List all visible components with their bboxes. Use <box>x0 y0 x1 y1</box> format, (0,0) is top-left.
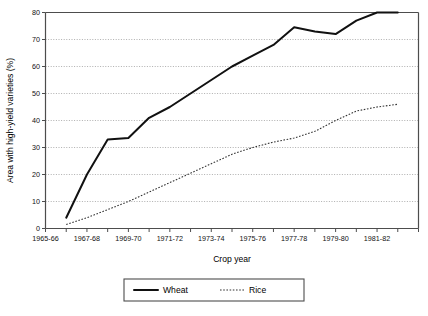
y-tick-label: 60 <box>32 62 40 71</box>
axes <box>46 13 419 229</box>
x-tick-label: 1977-78 <box>281 234 307 243</box>
y-tick-label: 70 <box>32 35 40 44</box>
series-line-wheat <box>66 13 398 218</box>
data-series <box>66 13 398 225</box>
series-line-rice <box>66 104 398 224</box>
gridlines <box>46 40 419 202</box>
x-tick-label: 1965-66 <box>32 234 58 243</box>
y-tick-label: 10 <box>32 197 40 206</box>
x-tick-label: 1967-68 <box>74 234 100 243</box>
x-tick-label: 1969-70 <box>115 234 141 243</box>
legend-label-rice: Rice <box>249 285 266 295</box>
x-tick-label: 1981-82 <box>364 234 390 243</box>
x-tick-label: 1979-80 <box>322 234 348 243</box>
x-axis-title: Crop year <box>213 254 251 264</box>
y-tick-label: 30 <box>32 143 40 152</box>
tick-marks <box>42 13 419 233</box>
y-tick-label: 80 <box>32 8 40 17</box>
x-tick-labels: 1965-661967-681969-701971-721973-741975-… <box>32 234 390 243</box>
y-tick-label: 0 <box>36 224 40 233</box>
y-axis-title: Area with high-yield varieties (%) <box>5 58 15 183</box>
chart-container: 01020304050607080 1965-661967-681969-701… <box>0 0 428 316</box>
y-tick-labels: 01020304050607080 <box>32 8 40 233</box>
line-chart: 01020304050607080 1965-661967-681969-701… <box>0 0 428 316</box>
legend-label-wheat: Wheat <box>163 285 188 295</box>
x-tick-label: 1975-76 <box>240 234 266 243</box>
y-tick-label: 50 <box>32 89 40 98</box>
y-tick-label: 20 <box>32 170 40 179</box>
x-tick-label: 1971-72 <box>157 234 183 243</box>
y-tick-label: 40 <box>32 116 40 125</box>
chart-legend: WheatRice <box>124 279 304 301</box>
x-tick-label: 1973-74 <box>198 234 224 243</box>
